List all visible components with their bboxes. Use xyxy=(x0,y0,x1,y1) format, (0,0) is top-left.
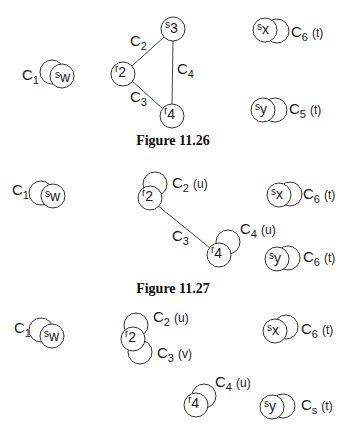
label-c1: C1 xyxy=(12,181,29,201)
label-c6a: C6(t) xyxy=(303,185,335,205)
label-c1: C1 xyxy=(14,319,31,339)
label-c1: C1 xyxy=(22,66,39,86)
label-c6b: C6(t) xyxy=(303,248,335,268)
figure-third: C1 sw r2 C2(u) C3(v) r4 C4(u) sx C6(t) s… xyxy=(14,308,333,419)
label-c2: C2 xyxy=(130,32,147,52)
label-c4: C4(u) xyxy=(240,220,276,240)
figure-caption: Figure 11.27 xyxy=(136,281,210,296)
label-c3: C3(v) xyxy=(157,344,192,364)
label-c4: C4(u) xyxy=(215,373,251,393)
label-c2: C2(u) xyxy=(172,174,208,194)
figure-11-26: C1 sw s3 r2 r4 C2 C3 C4 sx C6(t) sy C5(t… xyxy=(22,17,323,148)
label-c2: C2(u) xyxy=(153,308,189,328)
figure-11-27: C1 sw r2 C2(u) C3 r4 C4(u) sx C6(t) sy C… xyxy=(12,172,335,296)
label-c4: C4 xyxy=(177,60,194,80)
label-c6: C6(t) xyxy=(301,320,333,340)
diagram-canvas: C1 sw s3 r2 r4 C2 C3 C4 sx C6(t) sy C5(t… xyxy=(0,0,347,429)
label-c6: C6(t) xyxy=(291,23,323,43)
label-c3: C3 xyxy=(172,227,189,247)
figure-caption: Figure 11.26 xyxy=(136,133,210,148)
label-c3: C3 xyxy=(130,88,147,108)
edge-s3-r4 xyxy=(172,41,173,104)
label-c5: C5(t) xyxy=(289,100,321,120)
label-cs: Cs(t) xyxy=(301,396,333,416)
